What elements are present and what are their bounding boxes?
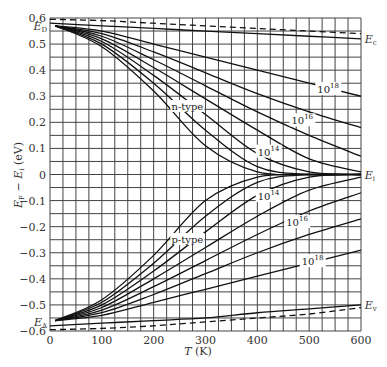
- type-label: n-type: [171, 101, 203, 112]
- y-tick-label: −0.4: [19, 273, 46, 286]
- y-tick-label: 0.4: [29, 64, 47, 77]
- curve-p-type-10-12: [55, 174, 361, 320]
- y-tick-label: 0.3: [29, 90, 47, 103]
- x-tick-label: 0: [47, 334, 54, 347]
- fermi-level-chart: 01002003004005006000.60.50.40.30.20.10−0…: [0, 0, 387, 367]
- x-tick-label: 100: [91, 334, 112, 347]
- x-tick-label: 200: [143, 334, 164, 347]
- type-label: p-type: [171, 234, 203, 245]
- x-tick-label: 400: [247, 334, 268, 347]
- curve-p-type-10-14: [55, 175, 361, 321]
- x-tick-label: 500: [299, 334, 320, 347]
- axis-ticks: 01002003004005006000.60.50.40.30.20.10−0…: [19, 12, 371, 347]
- y-axis-label: EF − Ei (eV): [12, 142, 26, 209]
- x-axis-label: T (K): [184, 345, 212, 358]
- y-tick-label: 0.1: [29, 142, 47, 155]
- curve-n-type-10-15: [55, 26, 361, 172]
- y-tick-label: −0.5: [19, 299, 46, 312]
- energy-level-label: Ec: [364, 33, 377, 47]
- y-tick-label: 0: [39, 169, 46, 182]
- energy-level-label: EA: [33, 316, 48, 330]
- energy-level-label: Ev: [364, 299, 377, 313]
- y-tick-label: 0.5: [29, 38, 47, 51]
- energy-level-label: Ei: [364, 169, 376, 183]
- y-tick-label: −0.3: [19, 247, 46, 260]
- y-tick-label: 0.2: [29, 116, 47, 129]
- x-tick-label: 600: [351, 334, 372, 347]
- curve-p-type-10-13: [55, 174, 361, 321]
- curve-n-type-10-16: [55, 26, 361, 156]
- y-tick-label: −0.2: [19, 221, 46, 234]
